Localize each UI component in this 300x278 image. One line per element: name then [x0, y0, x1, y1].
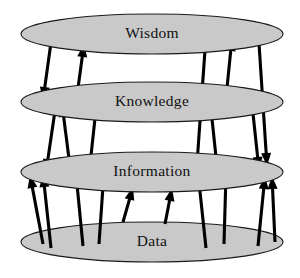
- tier-label-information: Information: [113, 162, 190, 179]
- arrow-data-to-information: [165, 188, 175, 224]
- arrow-data-to-information: [268, 176, 278, 242]
- tier-label-knowledge: Knowledge: [115, 92, 189, 109]
- tier-label-data: Data: [137, 232, 167, 249]
- arrow-shaft: [224, 185, 226, 244]
- dikw-diagram-canvas: WisdomKnowledgeInformationData: [0, 0, 300, 278]
- arrow-shaft: [123, 198, 130, 222]
- dikw-diagram: WisdomKnowledgeInformationData: [0, 0, 300, 278]
- tier-label-wisdom: Wisdom: [125, 24, 179, 41]
- arrow-shaft: [165, 199, 170, 224]
